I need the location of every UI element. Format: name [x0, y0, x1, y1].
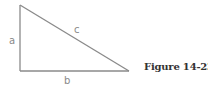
side-c-hypotenuse	[20, 5, 129, 71]
label-b: b	[64, 75, 70, 85]
figure-caption: Figure 14-23	[144, 61, 208, 72]
label-a: a	[9, 35, 15, 46]
triangle-shape	[20, 5, 129, 71]
right-triangle-diagram: a c b	[0, 0, 208, 85]
label-c: c	[74, 24, 80, 35]
